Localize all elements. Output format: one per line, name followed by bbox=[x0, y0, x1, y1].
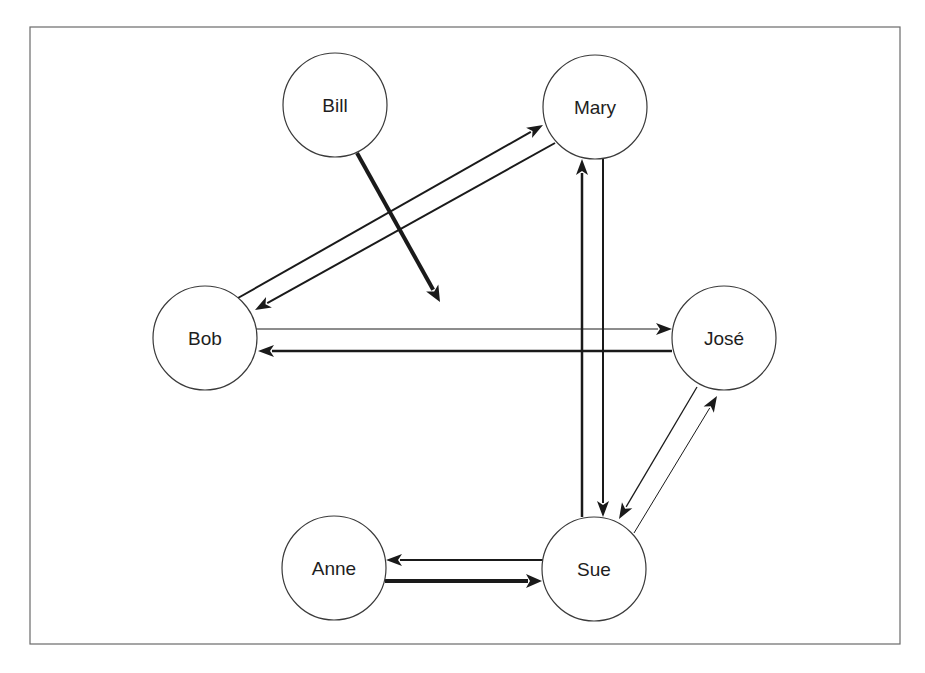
edge-line bbox=[267, 143, 555, 303]
edge-jose-to-sue bbox=[619, 387, 697, 519]
edge-line bbox=[634, 408, 710, 533]
node-label: Bob bbox=[188, 328, 222, 349]
edge-bill-arrow bbox=[357, 153, 440, 302]
edge-sue-to-mary bbox=[576, 159, 588, 517]
edge-sue-to-jose bbox=[634, 396, 717, 533]
node-bill: Bill bbox=[283, 53, 387, 157]
node-label: Mary bbox=[574, 97, 617, 118]
edge-bob-to-jose bbox=[256, 323, 672, 335]
edge-bob-to-mary bbox=[238, 125, 543, 298]
node-anne: Anne bbox=[282, 516, 386, 620]
edge-mary-to-bob bbox=[255, 143, 555, 310]
node-label: Sue bbox=[577, 559, 611, 580]
arrowhead-icon bbox=[576, 159, 588, 175]
node-bob: Bob bbox=[153, 286, 257, 390]
node-sue: Sue bbox=[542, 517, 646, 621]
arrowhead-icon bbox=[656, 323, 672, 335]
arrowhead-icon bbox=[704, 396, 717, 413]
arrowhead-icon bbox=[597, 501, 609, 517]
arrowhead-icon bbox=[526, 125, 543, 138]
arrowhead-icon bbox=[526, 574, 542, 588]
node-label: José bbox=[704, 328, 744, 349]
edge-mary-to-sue bbox=[597, 159, 609, 517]
edge-anne-to-sue bbox=[385, 574, 542, 588]
diagram-canvas: BillMaryBobJoséAnneSue bbox=[0, 0, 925, 673]
arrowhead-icon bbox=[386, 554, 402, 566]
arrowhead-icon bbox=[255, 297, 272, 310]
edge-jose-to-bob bbox=[258, 345, 672, 357]
edge-line bbox=[357, 153, 433, 290]
edge-sue-to-anne bbox=[386, 554, 543, 566]
nodes-layer: BillMaryBobJoséAnneSue bbox=[153, 53, 776, 621]
arrowhead-icon bbox=[258, 345, 274, 357]
edges-layer bbox=[238, 125, 717, 588]
edge-line bbox=[238, 132, 531, 298]
node-label: Bill bbox=[322, 95, 347, 116]
node-mary: Mary bbox=[543, 55, 647, 159]
node-label: Anne bbox=[312, 558, 356, 579]
node-jose: José bbox=[672, 286, 776, 390]
arrowhead-icon bbox=[619, 502, 632, 519]
